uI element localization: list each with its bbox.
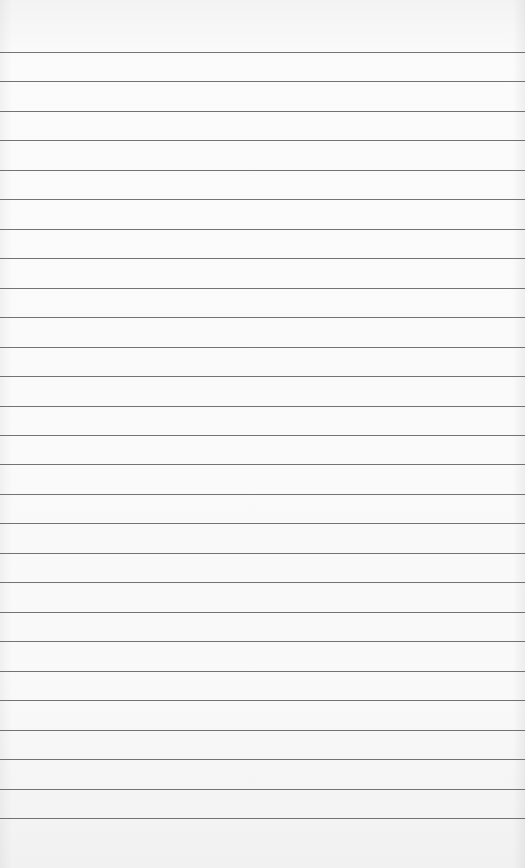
ruled-line — [0, 199, 525, 200]
ruled-line — [0, 641, 525, 642]
ruled-line — [0, 406, 525, 407]
ruled-line — [0, 170, 525, 171]
ruled-line — [0, 523, 525, 524]
ruled-line — [0, 288, 525, 289]
ruled-line — [0, 494, 525, 495]
ruled-line — [0, 464, 525, 465]
ruled-line — [0, 258, 525, 259]
ruled-line — [0, 376, 525, 377]
ruled-line — [0, 759, 525, 760]
ruled-line — [0, 818, 525, 819]
ruled-line — [0, 553, 525, 554]
ruled-line — [0, 789, 525, 790]
ruled-line — [0, 435, 525, 436]
ruled-line — [0, 700, 525, 701]
ruled-line — [0, 140, 525, 141]
ruled-line — [0, 582, 525, 583]
ruled-line — [0, 111, 525, 112]
ruled-line — [0, 347, 525, 348]
ruled-line — [0, 612, 525, 613]
ruled-line — [0, 229, 525, 230]
notepad-page — [0, 0, 525, 868]
ruled-line — [0, 317, 525, 318]
ruled-line — [0, 81, 525, 82]
ruled-line — [0, 730, 525, 731]
ruled-line — [0, 52, 525, 53]
ruled-line — [0, 671, 525, 672]
